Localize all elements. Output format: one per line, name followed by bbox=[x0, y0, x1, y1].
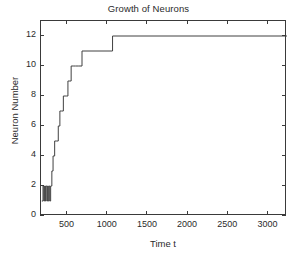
x-tick-label: 2500 bbox=[207, 220, 247, 229]
x-axis-label: Time t bbox=[40, 238, 286, 249]
y-tick-label: 0 bbox=[6, 210, 36, 219]
plot-axes-box bbox=[40, 20, 286, 215]
matlab-figure-canvas: Growth of Neurons 024681012 500100015002… bbox=[0, 0, 297, 259]
x-tick-label: 2000 bbox=[167, 220, 207, 229]
x-tick-label: 500 bbox=[47, 220, 87, 229]
y-tick-label: 2 bbox=[6, 180, 36, 189]
neuron-growth-step-line bbox=[41, 21, 287, 216]
chart-title: Growth of Neurons bbox=[0, 3, 297, 14]
x-tick-label: 1000 bbox=[87, 220, 127, 229]
x-tick-label: 3000 bbox=[248, 220, 288, 229]
x-tick-label: 1500 bbox=[127, 220, 167, 229]
y-tick-label: 12 bbox=[6, 30, 36, 39]
y-axis-label: Neuron Number bbox=[9, 61, 20, 161]
